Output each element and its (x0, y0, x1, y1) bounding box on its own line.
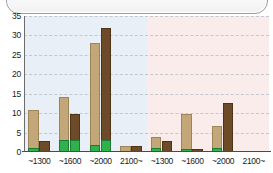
bar-series-tan-~1600 (181, 115, 191, 152)
bar-series-tan-~2000 (212, 127, 222, 152)
bar-series-brown-~2000 (101, 29, 111, 152)
y-tick-label: 25 (12, 50, 21, 60)
bar-groups (24, 16, 269, 152)
bar-segment-main (90, 43, 100, 152)
bar-segment-main (101, 28, 111, 152)
x-tick-label: ~1600 (181, 156, 203, 166)
bar-series-brown-~1600 (70, 115, 80, 152)
y-tick-label: 20 (12, 69, 21, 79)
plot-area: 05101520253035 ~1300~1600~20002100~~1300… (24, 16, 269, 152)
x-tick-label: 2100~ (243, 156, 265, 166)
bar-series-tan-~1600 (59, 98, 69, 152)
bar-segment-main (28, 110, 38, 152)
y-axis-line (24, 16, 25, 152)
y-tick-label: 15 (12, 89, 21, 99)
x-axis-line (22, 151, 271, 152)
chart-root: 05101520253035 ~1300~1600~20002100~~1300… (0, 0, 273, 173)
bar-segment-main (223, 103, 233, 152)
y-tick-label: 0 (16, 147, 21, 157)
bar-segment-main (181, 114, 191, 152)
x-tick-label: ~1300 (151, 156, 173, 166)
bar-series-tan-~1300 (151, 138, 161, 152)
x-tick-label: ~2000 (212, 156, 234, 166)
bar-series-tan-~2000 (90, 44, 100, 152)
window-frame-fill (7, 0, 266, 12)
x-tick-label: ~2000 (89, 156, 111, 166)
bar-series-tan-~1300 (28, 111, 38, 152)
y-tick-label: 30 (12, 30, 21, 40)
bar-series-brown-~2000 (223, 104, 233, 152)
y-tick-label: 10 (12, 108, 21, 118)
y-tick-label: 35 (12, 11, 21, 21)
x-tick-label: ~1300 (28, 156, 50, 166)
y-tick-label: 5 (16, 128, 21, 138)
x-tick-label: 2100~ (120, 156, 142, 166)
x-tick-label: ~1600 (59, 156, 81, 166)
